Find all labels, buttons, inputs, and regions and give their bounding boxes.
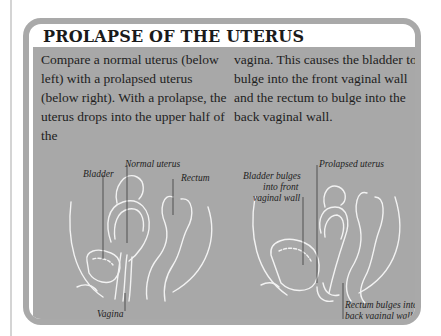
label-normal-uterus: Normal uterus bbox=[125, 159, 180, 170]
page-margin-rule bbox=[10, 0, 12, 336]
prolapse-info-box: PROLAPSE OF THE UTERUS Compare a normal … bbox=[23, 18, 421, 325]
label-rectum: Rectum bbox=[181, 173, 210, 184]
label-bladder-bulges-3: vaginal wall bbox=[253, 193, 300, 204]
label-rectum-bulges-1: Rectum bulges into bbox=[345, 300, 418, 311]
label-bladder-bulges-1: Bladder bulges bbox=[243, 171, 301, 182]
label-bladder: Bladder bbox=[83, 169, 114, 180]
label-bladder-bulges-2: into front bbox=[263, 182, 298, 193]
box-title: PROLAPSE OF THE UTERUS bbox=[43, 26, 304, 48]
anatomy-illustrations bbox=[33, 47, 421, 325]
label-prolapsed-uterus: Prolapsed uterus bbox=[319, 159, 384, 170]
normal-uterus-diagram bbox=[70, 176, 212, 301]
content-panel: Compare a normal uterus (below left) wit… bbox=[33, 47, 415, 319]
label-vagina: Vagina bbox=[97, 309, 123, 320]
label-rectum-bulges-2: back vaginal wall bbox=[345, 311, 413, 322]
